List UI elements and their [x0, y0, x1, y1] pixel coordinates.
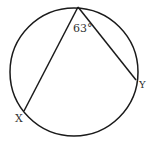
angle-label: 63° [73, 22, 93, 35]
point-label-y: Y [138, 79, 146, 90]
circle-diagram: 63° X Y [0, 0, 154, 142]
point-label-x: X [15, 112, 23, 125]
chord-vertex-to-x [24, 7, 78, 111]
